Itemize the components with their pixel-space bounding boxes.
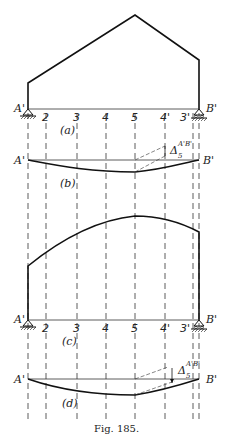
roller-support-icon	[191, 109, 207, 121]
delta-subscript-b: 5	[178, 152, 183, 160]
station-5-c: 5	[131, 322, 138, 335]
support-label-d-left: A'	[13, 373, 25, 386]
support-label-c-right: B'	[205, 313, 217, 326]
deflection-b: A' B' Δ 5 A'B' (b)	[13, 140, 214, 190]
support-label-b-right: B'	[202, 154, 214, 167]
delta-symbol-d: Δ	[177, 364, 186, 377]
support-label-c-left: A'	[13, 313, 25, 326]
delta-symbol-b: Δ	[169, 144, 178, 157]
delta-superscript-d: A'B'	[185, 360, 200, 368]
figure-caption: Fig. 185.	[94, 423, 139, 434]
delta-subscript-d: 5	[186, 372, 191, 380]
station-2-c: 2	[42, 322, 49, 335]
panel-label-c: (c)	[62, 335, 77, 348]
station-5: 5	[131, 111, 138, 124]
panel-label-d: (d)	[62, 397, 78, 410]
panel-label-b: (b)	[60, 177, 76, 190]
station-4p: 4'	[160, 111, 170, 124]
support-label-b-left: A'	[13, 154, 25, 167]
projection-lines	[28, 113, 199, 420]
support-label-a-right: B'	[205, 102, 217, 115]
station-4p-c: 4'	[160, 322, 170, 335]
station-3: 3	[73, 111, 80, 124]
station-3p: 3'	[180, 111, 190, 124]
frame-c: A' B' 2 3 4 5 4' 3' (c)	[13, 216, 217, 348]
panel-label-a: (a)	[60, 124, 75, 137]
frame-a: A' B' 2 3 4 5 4' 3' (a)	[13, 15, 217, 137]
deflection-d: A' B' Δ 5 A'B' (d)	[13, 360, 217, 410]
support-label-a-left: A'	[13, 102, 25, 115]
delta-superscript-b: A'B'	[177, 140, 192, 148]
station-4: 4	[102, 111, 109, 124]
station-3-c: 3	[73, 322, 80, 335]
station-2: 2	[42, 111, 49, 124]
station-3p-c: 3'	[180, 322, 190, 335]
support-label-d-right: B'	[205, 373, 217, 386]
station-4-c: 4	[102, 322, 109, 335]
figure-185: A' B' 2 3 4 5 4' 3' (a) A' B' Δ 5 A'B' (…	[0, 0, 230, 439]
roller-support-icon	[191, 320, 207, 332]
